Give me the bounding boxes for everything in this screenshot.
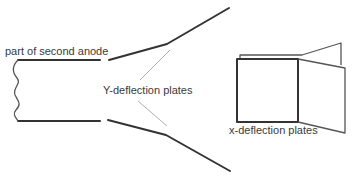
y-plate-lower-leader xyxy=(138,101,167,126)
label-y-deflection-plates: Y-deflection plates xyxy=(103,84,193,96)
x-plate-back xyxy=(240,43,341,65)
x-plate-front xyxy=(237,59,298,122)
y-plate-upper xyxy=(109,8,229,60)
crt-deflection-diagram: part of second anode Y-deflection plates… xyxy=(0,0,357,181)
x-deflection-plates xyxy=(237,43,345,133)
second-anode xyxy=(13,60,100,121)
x-plate-flap xyxy=(298,59,345,133)
y-plate-upper-leader xyxy=(140,50,170,80)
y-plate-lower xyxy=(108,120,230,171)
label-x-deflection-plates: x-deflection plates xyxy=(229,124,318,136)
anode-break-edge xyxy=(13,60,19,121)
label-second-anode: part of second anode xyxy=(5,45,108,57)
